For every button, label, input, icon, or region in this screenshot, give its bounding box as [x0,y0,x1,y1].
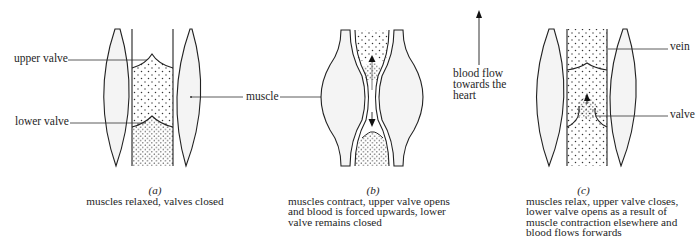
blood-flow-line-3: heart [453,90,506,101]
label-muscle: muscle [246,91,279,102]
muscle-right-a [177,29,201,166]
caption-a-line-1: muscles relaxed, valves closed [86,195,223,207]
caption-b-line-3: valve remains closed [288,217,488,228]
blood-flow-arrow [476,10,482,65]
muscle-left-a [104,29,129,166]
label-vein: vein [670,41,690,52]
caption-c-line-2: lower valve opens as a result of [526,206,700,217]
panel-b-drawing [321,30,423,166]
label-valve: valve [670,109,695,120]
caption-c: (c) muscles relax, upper valve closes, l… [526,185,700,236]
arrow-down-icon [369,119,376,127]
label-lower-valve: lower valve [15,116,69,127]
label-blood-flow: blood flow towards the heart [453,68,506,101]
panel-c-id: (c) [526,185,641,196]
caption-a: (a) muscles relaxed, valves closed [80,185,230,206]
label-upper-valve: upper valve [14,53,68,64]
arrow-up-icon [476,10,482,18]
caption-b: (b) muscles contract, upper valve opens … [288,185,488,227]
muscle-right-c [610,29,636,166]
caption-b-line-2: and blood is forced upwards, lower [288,206,488,217]
panel-b-id: (b) [288,185,458,196]
muscle-left-c [537,29,564,166]
panel-a-drawing [68,29,201,166]
panel-c-drawing [537,29,669,166]
caption-c-line-4: blood flows forwards [526,227,700,236]
